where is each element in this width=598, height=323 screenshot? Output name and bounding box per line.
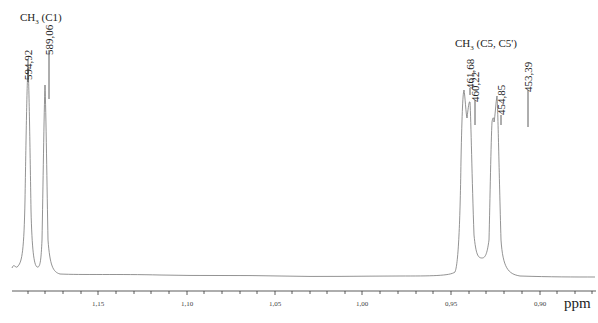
tick-label: 1,05 — [269, 300, 281, 308]
peak-label-4: 460,22 — [469, 72, 481, 102]
nmr-spectrum-figure: CH3 (C1) CH3 (C5, C5') 594,92 589,06 461… — [0, 0, 598, 323]
tick-label: 1,15 — [92, 300, 104, 308]
peak-label-1: 594,92 — [22, 50, 34, 80]
peak-label-2: 589,06 — [43, 25, 55, 55]
peak-label-6: 453,39 — [522, 62, 534, 92]
spectrum-trace — [12, 68, 595, 277]
tick-label: 0,90 — [534, 300, 546, 308]
axis-unit-label: ppm — [564, 295, 591, 312]
annotation-c1: CH3 (C1) — [20, 11, 62, 26]
tick-label: 0,95 — [445, 300, 457, 308]
tick-label: 1,00 — [356, 300, 368, 308]
peak-label-5: 454,85 — [495, 85, 507, 115]
tick-label: 1,10 — [181, 300, 193, 308]
annotation-c5: CH3 (C5, C5') — [455, 37, 517, 52]
